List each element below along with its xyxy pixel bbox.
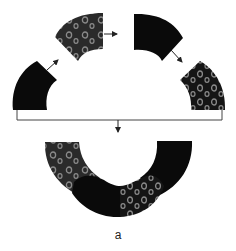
assembled-tile-patterned-bottom-right — [120, 175, 164, 217]
assembled-ring — [45, 141, 192, 217]
arrow-1 — [47, 60, 58, 70]
tile-piece-solid-top-right — [134, 14, 183, 61]
diagram-canvas — [0, 0, 236, 251]
tile-piece-patterned-right — [180, 61, 225, 110]
bracket — [17, 110, 222, 120]
figure-caption: a — [0, 228, 236, 242]
tile-piece-patterned-top-left — [55, 13, 103, 61]
tile-piece-solid-left — [13, 61, 57, 110]
assembled-tile-solid-bottom-left — [72, 176, 120, 217]
arrow-3 — [171, 50, 182, 62]
